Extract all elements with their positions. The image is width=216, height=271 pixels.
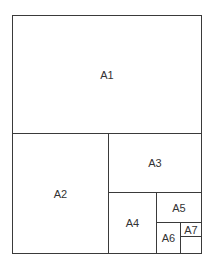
sheet-a5: A5 — [156, 192, 202, 223]
sheet-a3: A3 — [108, 133, 202, 193]
sheet-a2-label: A2 — [54, 188, 67, 200]
sheet-a8 — [180, 236, 202, 254]
sheet-a7: A7 — [180, 222, 202, 237]
sheet-a4-label: A4 — [126, 217, 139, 229]
sheet-a6-label: A6 — [162, 232, 175, 244]
sheet-a5-label: A5 — [172, 202, 185, 214]
sheet-a1: A1 — [12, 15, 202, 134]
sheet-a2: A2 — [12, 133, 109, 254]
sheet-a3-label: A3 — [148, 157, 161, 169]
sheet-a6: A6 — [156, 222, 181, 254]
sheet-a4: A4 — [108, 192, 157, 254]
sheet-a1-label: A1 — [100, 69, 113, 81]
sheet-a7-label: A7 — [184, 224, 197, 236]
